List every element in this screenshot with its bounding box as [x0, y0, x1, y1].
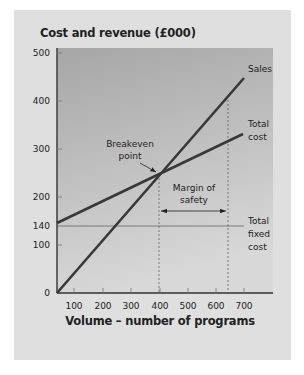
- x-axis-label: Volume – number of programs: [65, 314, 255, 328]
- svg-text:safety: safety: [180, 195, 208, 205]
- svg-text:Margin of: Margin of: [173, 183, 216, 193]
- svg-text:Breakeven: Breakeven: [106, 139, 154, 149]
- svg-text:100: 100: [65, 301, 82, 311]
- x-tick-labels: 100 200 300 400 500 600 700: [65, 301, 252, 311]
- svg-text:300: 300: [122, 301, 139, 311]
- total-fixed-cost-label: Total fixed cost: [247, 216, 270, 252]
- svg-text:300: 300: [33, 144, 50, 154]
- svg-text:500: 500: [33, 48, 50, 58]
- svg-text:200: 200: [94, 301, 111, 311]
- svg-text:400: 400: [33, 96, 50, 106]
- svg-text:700: 700: [235, 301, 252, 311]
- svg-text:cost: cost: [248, 132, 267, 142]
- svg-text:Total: Total: [247, 216, 269, 226]
- svg-text:400: 400: [151, 301, 168, 311]
- svg-text:140: 140: [33, 221, 50, 231]
- breakeven-chart: 0 100 140 200 300 400 500 100 200 300 40…: [0, 0, 304, 375]
- svg-text:point: point: [119, 151, 142, 161]
- svg-text:cost: cost: [248, 242, 267, 252]
- svg-text:Total: Total: [247, 119, 269, 129]
- svg-text:200: 200: [33, 192, 50, 202]
- svg-text:0: 0: [44, 288, 50, 298]
- sales-label: Sales: [248, 64, 272, 74]
- svg-text:fixed: fixed: [248, 229, 270, 239]
- svg-text:500: 500: [179, 301, 196, 311]
- y-tick-labels: 0 100 140 200 300 400 500: [33, 48, 50, 298]
- svg-text:100: 100: [33, 240, 50, 250]
- svg-text:600: 600: [207, 301, 224, 311]
